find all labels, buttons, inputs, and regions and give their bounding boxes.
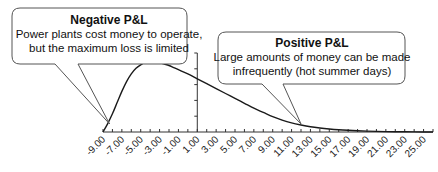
x-tick-label: 1.00 (180, 133, 202, 155)
positive-pnl-callout: Positive P&L Large amounts of money can … (214, 32, 411, 124)
x-tick-label: 7.00 (237, 133, 259, 155)
negative-pnl-title: Negative P&L (70, 13, 147, 27)
pnl-distribution-chart: -9.00-7.00-5.00-3.00-1.001.003.005.007.0… (0, 0, 438, 172)
negative-pnl-line-1: Power plants cost money to operate, (16, 28, 203, 40)
positive-pnl-line-2: infrequently (hot summer days) (233, 65, 392, 77)
x-tick-label: 5.00 (218, 133, 240, 155)
x-tick-label: 3.00 (199, 133, 221, 155)
x-tick-label: -9.00 (84, 133, 108, 157)
x-tick-label: -1.00 (159, 133, 183, 157)
x-tick-label: -7.00 (102, 133, 126, 157)
x-tick-label: -3.00 (140, 133, 164, 157)
callouts: Negative P&L Power plants cost money to … (12, 8, 410, 124)
x-tick-label: 25.00 (403, 133, 429, 159)
x-tick-label: -5.00 (121, 133, 145, 157)
positive-pnl-title: Positive P&L (275, 36, 348, 50)
positive-pnl-line-1: Large amounts of money can be made (214, 51, 411, 63)
negative-pnl-line-2: but the maximum loss is limited (29, 42, 189, 54)
negative-pnl-callout: Negative P&L Power plants cost money to … (12, 8, 202, 124)
